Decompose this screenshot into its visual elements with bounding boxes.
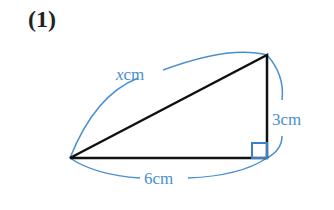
horizontal-arc <box>70 158 140 178</box>
vertical-label: 3cm <box>272 110 301 129</box>
vertical-arc <box>267 55 282 100</box>
right-angle-mark <box>252 143 267 158</box>
horizontal-label: 6cm <box>144 169 173 188</box>
right-triangle-diagram: xcm 3cm 6cm <box>0 0 334 210</box>
hypotenuse-arc <box>70 78 138 158</box>
hypotenuse-label: xcm <box>115 65 144 84</box>
